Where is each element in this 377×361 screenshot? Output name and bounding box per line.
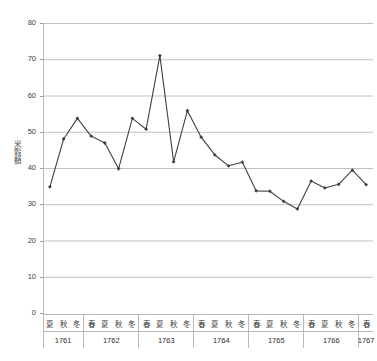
data-point-marker bbox=[323, 186, 327, 190]
season-group: 春夏秋冬 bbox=[304, 315, 359, 331]
x-tick-label-year: 1763 bbox=[139, 332, 194, 348]
x-tick-label-season: 春 bbox=[359, 315, 373, 331]
x-tick-label-season: 春 bbox=[139, 315, 153, 331]
x-tick-label-season: 冬 bbox=[235, 315, 249, 331]
x-tick-label-season: 秋 bbox=[331, 315, 345, 331]
y-tick-label: 80 bbox=[14, 19, 36, 27]
plot-area bbox=[43, 23, 373, 313]
season-group: 夏秋冬 bbox=[43, 315, 84, 331]
series-plot bbox=[43, 23, 373, 313]
data-point-marker bbox=[309, 179, 313, 183]
data-point-marker bbox=[254, 189, 258, 193]
season-group: 春夏秋冬 bbox=[84, 315, 139, 331]
x-tick-label-season: 春 bbox=[194, 315, 208, 331]
data-point-marker bbox=[158, 54, 162, 58]
x-tick-label-season: 秋 bbox=[166, 315, 180, 331]
y-tick-label: 0 bbox=[14, 309, 36, 317]
x-tick-label-season: 春 bbox=[304, 315, 318, 331]
season-group: 春夏秋冬 bbox=[194, 315, 249, 331]
x-tick-label-season: 秋 bbox=[276, 315, 290, 331]
data-point-marker bbox=[48, 185, 52, 189]
x-tick-label-season: 春 bbox=[249, 315, 263, 331]
x-tick-label-season: 夏 bbox=[208, 315, 222, 331]
line-chart: 米穀額 80706050403020100 夏秋冬春夏秋冬春夏秋冬春夏秋冬春夏秋… bbox=[0, 0, 377, 361]
season-group: 春夏秋冬 bbox=[139, 315, 194, 331]
y-tick-label: 60 bbox=[14, 92, 36, 100]
x-tick-label-season: 秋 bbox=[111, 315, 125, 331]
x-tick-label-year: 1761 bbox=[43, 332, 84, 348]
x-tick-label-year: 1766 bbox=[304, 332, 359, 348]
x-tick-label-season: 秋 bbox=[56, 315, 69, 331]
data-point-marker bbox=[240, 160, 244, 164]
x-tick-label-season: 冬 bbox=[125, 315, 139, 331]
season-group: 春夏秋冬 bbox=[249, 315, 304, 331]
y-tick-label: 20 bbox=[14, 237, 36, 245]
y-tick-label: 50 bbox=[14, 128, 36, 136]
x-tick-label-season: 夏 bbox=[43, 315, 56, 331]
y-tick-label: 70 bbox=[14, 55, 36, 63]
y-tick-label: 10 bbox=[14, 273, 36, 281]
x-tick-label-season: 冬 bbox=[70, 315, 83, 331]
x-axis-year-labels: 1761176217631764176517661767 bbox=[43, 332, 373, 348]
x-tick-label-year: 1767 bbox=[359, 332, 373, 348]
x-tick-label-season: 夏 bbox=[263, 315, 277, 331]
x-tick-label-year: 1764 bbox=[194, 332, 249, 348]
x-tick-label-season: 夏 bbox=[153, 315, 167, 331]
y-tick-label: 30 bbox=[14, 200, 36, 208]
data-point-marker bbox=[117, 167, 121, 171]
season-group: 春 bbox=[359, 315, 373, 331]
x-tick-label-season: 春 bbox=[84, 315, 98, 331]
x-tick-label-season: 冬 bbox=[290, 315, 304, 331]
x-axis-season-labels: 夏秋冬春夏秋冬春夏秋冬春夏秋冬春夏秋冬春夏秋冬春 bbox=[43, 314, 373, 332]
x-tick-label-year: 1765 bbox=[249, 332, 304, 348]
x-tick-label-season: 夏 bbox=[98, 315, 112, 331]
x-tick-label-season: 秋 bbox=[221, 315, 235, 331]
data-point-marker bbox=[185, 109, 189, 113]
x-tick-label-season: 冬 bbox=[345, 315, 359, 331]
x-tick-label-year: 1762 bbox=[84, 332, 139, 348]
data-point-marker bbox=[172, 160, 176, 164]
y-axis-title: 米穀額 bbox=[6, 140, 20, 164]
x-tick-label-season: 冬 bbox=[180, 315, 194, 331]
y-tick-label: 40 bbox=[14, 164, 36, 172]
x-tick-label-season: 夏 bbox=[318, 315, 332, 331]
